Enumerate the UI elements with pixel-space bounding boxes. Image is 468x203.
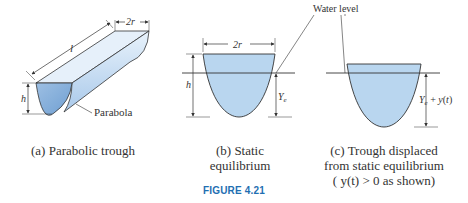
water-level-label: Water level [313, 3, 359, 14]
height-label: h [21, 93, 26, 104]
trough-b-fill [203, 54, 275, 117]
panel-b-static: 2r h Ye [182, 38, 295, 125]
caption-b-line1: (b) Static [190, 143, 290, 158]
depth-label-c: Ye + y(t) [419, 94, 452, 107]
height-label-b: h [186, 79, 191, 90]
panel-c-displaced: Ye + y(t) [326, 64, 452, 127]
width-label-b: 2r [233, 39, 242, 50]
length-label: l [70, 42, 73, 54]
width-label: 2r [126, 16, 135, 27]
caption-b: (b) Static equilibrium [190, 143, 290, 173]
caption-c: (c) Trough displaced from static equilib… [312, 143, 456, 188]
caption-c-line1: (c) Trough displaced [312, 143, 456, 158]
water-level-callout: Water level [276, 3, 359, 73]
caption-a: (a) Parabolic trough [18, 143, 148, 158]
depth-label-b: Ye [278, 91, 287, 104]
figure-number: FIGURE 4.21 [0, 185, 468, 196]
parabola-label: Parabola [94, 106, 133, 118]
caption-b-line2: equilibrium [190, 158, 290, 173]
caption-c-line2: from static equilibrium [312, 158, 456, 173]
panel-a-trough: l 2r h Parabola [21, 16, 149, 118]
